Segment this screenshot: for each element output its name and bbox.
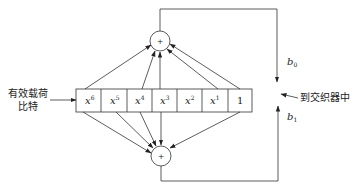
register-cell-x1: x1 bbox=[210, 94, 219, 106]
b0-label: b0 bbox=[287, 56, 297, 68]
interleaver-arrow bbox=[281, 94, 298, 98]
input-label-line1: 有效载荷 bbox=[8, 87, 48, 99]
convolutional-encoder-diagram: x6 x5 x4 x3 x2 x1 1 + + b0 b1 到交织 bbox=[0, 0, 354, 195]
register-cell-x3: x3 bbox=[160, 94, 170, 106]
b0-output-path bbox=[160, 9, 277, 82]
output-label: 到交织器中 bbox=[300, 91, 350, 103]
register-cell-x2: x2 bbox=[185, 94, 195, 106]
input-label-line2: 比特 bbox=[18, 101, 38, 112]
register-cell-1: 1 bbox=[237, 95, 243, 106]
register-cell-x5: x5 bbox=[110, 94, 120, 106]
bottom-taps bbox=[83, 112, 240, 153]
b1-label: b1 bbox=[287, 111, 297, 123]
svg-text:+: + bbox=[158, 152, 165, 161]
top-adder: + bbox=[150, 31, 170, 51]
register-cell-x6: x6 bbox=[85, 94, 95, 106]
register-cell-x4: x4 bbox=[135, 94, 145, 106]
bottom-adder: + bbox=[151, 146, 171, 166]
svg-text:+: + bbox=[157, 37, 164, 46]
